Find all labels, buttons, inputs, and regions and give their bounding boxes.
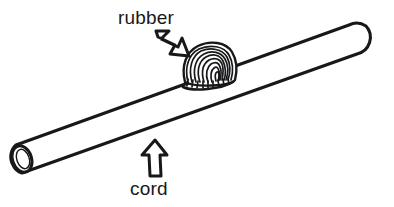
cord-label: cord — [130, 178, 168, 199]
cord-label-group: cord — [130, 140, 168, 199]
rubber-strand-c — [197, 81, 198, 88]
rubber-label: rubber — [118, 7, 175, 28]
arrow-down-right-icon — [156, 31, 189, 56]
rubber-coil — [183, 43, 237, 90]
arrow-up-icon — [142, 140, 167, 176]
rubber-strand-g — [218, 80, 219, 87]
rubber-strand-b — [192, 80, 193, 87]
rubber-label-group: rubber — [118, 7, 189, 56]
cord-illustration — [9, 23, 371, 175]
cord-tube-body — [11, 23, 371, 173]
rubber-strand-a — [187, 79, 188, 86]
figure-canvas: rubber cord — [0, 0, 394, 207]
line-drawing: rubber cord — [0, 0, 394, 207]
